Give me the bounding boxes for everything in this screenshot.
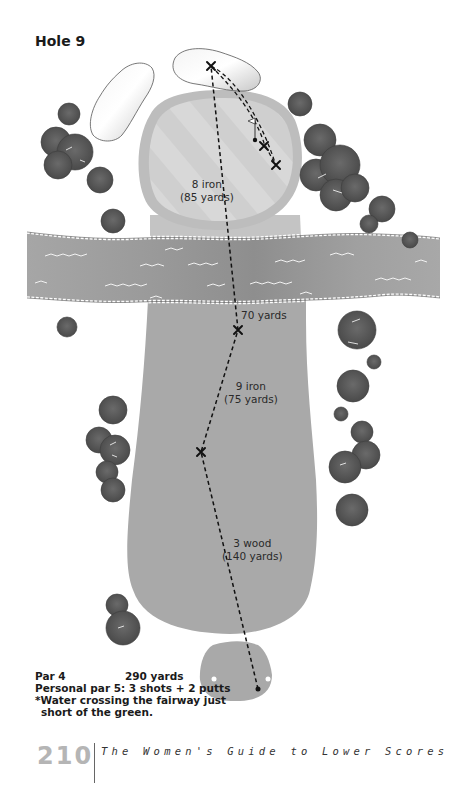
shot-distance: (75 yards) <box>224 393 278 406</box>
shot-club: 3 wood <box>222 537 283 550</box>
shot-distance: 70 yards <box>241 309 287 322</box>
par-value: Par 4 <box>35 670 125 682</box>
shot-label-8-iron: 8 iron (85 yards) <box>180 178 234 204</box>
tee-marker-right <box>266 677 271 682</box>
hole-length: 290 yards <box>125 670 183 682</box>
shot-distance: (85 yards) <box>180 191 234 204</box>
bunker-right <box>173 49 260 91</box>
page-number: 210 <box>37 742 93 770</box>
hole-cup <box>253 138 257 142</box>
hole-info: Par 4 290 yards Personal par 5: 3 shots … <box>35 670 230 718</box>
hazard-note-line2: short of the green. <box>35 706 230 718</box>
book-title: The Women's Guide to Lower Scores <box>101 745 448 757</box>
hazard-note-line1: *Water crossing the fairway just <box>35 694 230 706</box>
footer-divider <box>94 743 95 783</box>
shot-label-9-iron: 9 iron (75 yards) <box>224 380 278 406</box>
shot-label-70-yards: 70 yards <box>241 309 287 322</box>
shot-distance: (140 yards) <box>222 550 283 563</box>
fairway <box>127 298 317 634</box>
shot-club: 9 iron <box>224 380 278 393</box>
shot-club: 8 iron <box>180 178 234 191</box>
personal-par: Personal par 5: 3 shots + 2 putts <box>35 682 230 694</box>
hole-title: Hole 9 <box>35 33 85 49</box>
shot-label-3-wood: 3 wood (140 yards) <box>222 537 283 563</box>
